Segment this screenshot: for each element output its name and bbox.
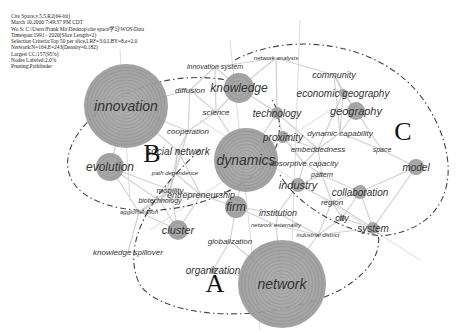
node-label-model: model: [402, 162, 430, 173]
node-label-innovation: innovation: [94, 98, 158, 114]
node-label-industry: industry: [279, 179, 319, 191]
node-label-technology: technology: [253, 108, 302, 119]
node-label-knowledge: knowledge: [210, 81, 268, 95]
network-graph: innovationnetworkdynamicsknowledgeevolut…: [0, 0, 473, 333]
node-label-network-externality: network externality: [251, 222, 302, 228]
node-label-cluster: cluster: [162, 224, 196, 236]
node-label-dynamics: dynamics: [216, 152, 275, 168]
node-label-economic-geography: economic geography: [297, 88, 391, 99]
node-label-network: network: [257, 276, 307, 292]
node-label-proximity: proximity: [262, 132, 304, 143]
node-label-path-dependence: path dependence: [151, 170, 199, 176]
node-label-science: science: [202, 108, 230, 117]
node-label-industrial-district: industrial district: [296, 232, 339, 238]
node-label-cooperation: cooperation: [167, 127, 209, 136]
node-label-network-analysis: network analysis: [254, 55, 298, 61]
cluster-label-c: C: [394, 117, 411, 146]
node-label-pattern: pattern: [310, 171, 333, 179]
cluster-label-a: A: [206, 269, 225, 298]
node-label-institution: institution: [259, 208, 297, 218]
node-label-agglomeration: agglomeration: [120, 209, 159, 215]
node-label-diffusion: diffusion: [175, 86, 205, 95]
edge: [188, 90, 190, 131]
node-label-collaboration: collaboration: [332, 187, 389, 198]
node-label-innovation-system: innovation system: [187, 63, 243, 71]
node-label-biotechnology: biotechnology: [138, 197, 182, 205]
node-label-space: space: [373, 146, 392, 154]
node-label-firm: firm: [226, 200, 246, 214]
node-label-embeddedness: embeddedness: [291, 145, 346, 154]
node-label-evolution: evolution: [86, 160, 134, 174]
cluster-label-b: B: [143, 139, 160, 168]
node-label-absorptive-capacity: absorptive capacity: [270, 159, 339, 168]
node-label-dynamic-capability: dynamic capability: [307, 129, 373, 138]
node-label-geography: geography: [330, 105, 383, 117]
edge: [276, 58, 277, 113]
node-label-city: city: [335, 213, 349, 223]
node-label-knowledge-spillover: knowledge spillover: [93, 248, 163, 257]
node-label-community: community: [312, 70, 356, 80]
node-label-globalization: globalization: [208, 237, 253, 246]
edge: [128, 212, 139, 252]
node-label-system: system: [357, 223, 389, 234]
node-label-region: region: [321, 198, 344, 207]
